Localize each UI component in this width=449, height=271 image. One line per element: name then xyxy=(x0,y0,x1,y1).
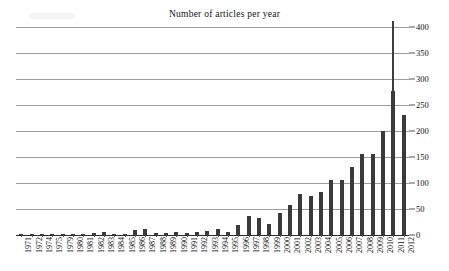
x-tick-label: 1981 xyxy=(86,237,95,253)
y-tick-mark-150 xyxy=(409,157,415,158)
x-tick-mark xyxy=(342,235,343,237)
x-tick-label: 1995 xyxy=(231,237,240,253)
x-tick-mark xyxy=(187,235,188,237)
x-axis: 1971197219741975197919801981198219831984… xyxy=(16,237,409,271)
x-tick-label: 1980 xyxy=(76,237,85,253)
bar xyxy=(371,154,375,235)
x-tick-mark xyxy=(321,235,322,237)
bar xyxy=(340,180,344,235)
y-tick-label: 200 xyxy=(416,126,429,136)
x-tick-mark xyxy=(114,235,115,237)
bar xyxy=(257,218,261,235)
bar xyxy=(236,225,240,235)
bar xyxy=(360,154,364,235)
gridline-300 xyxy=(16,79,409,80)
x-tick-mark xyxy=(156,235,157,237)
x-tick-label: 1992 xyxy=(200,237,209,253)
y-tick-label: 150 xyxy=(416,152,429,162)
x-tick-label: 2009 xyxy=(376,237,385,253)
x-tick-mark xyxy=(104,235,105,237)
x-tick-mark xyxy=(311,235,312,237)
x-tick-mark xyxy=(249,235,250,237)
x-tick-mark xyxy=(331,235,332,237)
y-tick-label: 250 xyxy=(416,100,429,110)
x-tick-label: 2007 xyxy=(355,237,364,253)
x-tick-label: 1971 xyxy=(24,237,33,253)
gridline-150 xyxy=(16,157,409,158)
x-tick-mark xyxy=(73,235,74,237)
y-tick-label: 300 xyxy=(416,74,429,84)
x-tick-label: 1987 xyxy=(148,237,157,253)
x-tick-label: 1993 xyxy=(211,237,220,253)
x-tick-mark xyxy=(269,235,270,237)
x-tick-mark xyxy=(362,235,363,237)
x-tick-mark xyxy=(228,235,229,237)
x-tick-label: 2003 xyxy=(314,237,323,253)
gridline-250 xyxy=(16,105,409,106)
gridline-200 xyxy=(16,131,409,132)
x-tick-mark xyxy=(83,235,84,237)
y-tick-label: 100 xyxy=(416,178,429,188)
x-tick-label: 2000 xyxy=(283,237,292,253)
x-tick-mark xyxy=(352,235,353,237)
x-tick-mark xyxy=(145,235,146,237)
x-tick-label: 1984 xyxy=(117,237,126,253)
x-tick-label: 1988 xyxy=(159,237,168,253)
x-tick-label: 1997 xyxy=(252,237,261,253)
y-tick-mark-300 xyxy=(409,79,415,80)
x-tick-mark xyxy=(32,235,33,237)
x-tick-label: 2012 xyxy=(407,237,416,253)
bar xyxy=(309,196,313,235)
x-tick-label: 1986 xyxy=(138,237,147,253)
x-tick-label: 1990 xyxy=(180,237,189,253)
y-tick-label: 0 xyxy=(416,230,420,240)
plot-right-border xyxy=(392,21,394,209)
y-tick-mark-350 xyxy=(409,53,415,54)
x-tick-mark xyxy=(259,235,260,237)
x-tick-label: 2010 xyxy=(386,237,395,253)
bar xyxy=(288,205,292,235)
y-tick-label: 400 xyxy=(416,22,429,32)
x-tick-label: 1974 xyxy=(45,237,54,253)
x-tick-mark xyxy=(135,235,136,237)
x-tick-mark xyxy=(207,235,208,237)
x-tick-label: 2001 xyxy=(293,237,302,253)
x-tick-label: 2008 xyxy=(366,237,375,253)
x-tick-label: 2002 xyxy=(304,237,313,253)
x-tick-label: 1994 xyxy=(221,237,230,253)
x-tick-label: 2005 xyxy=(335,237,344,253)
y-tick-mark-200 xyxy=(409,131,415,132)
x-tick-mark xyxy=(63,235,64,237)
bar xyxy=(350,167,354,235)
x-tick-label: 1998 xyxy=(262,237,271,253)
bar xyxy=(298,194,302,235)
chart-figure: Number of articles per year 050100150200… xyxy=(0,0,449,271)
x-tick-mark xyxy=(94,235,95,237)
y-tick-mark-100 xyxy=(409,183,415,184)
chart-title: Number of articles per year xyxy=(0,9,449,19)
x-tick-mark xyxy=(290,235,291,237)
x-tick-label: 1985 xyxy=(128,237,137,253)
x-tick-label: 1983 xyxy=(107,237,116,253)
bar xyxy=(267,224,271,235)
bar xyxy=(329,180,333,235)
x-tick-mark xyxy=(280,235,281,237)
y-tick-mark-400 xyxy=(409,27,415,28)
y-tick-mark-50 xyxy=(409,209,415,210)
gridline-0 xyxy=(16,235,409,236)
bar xyxy=(247,216,251,235)
x-tick-label: 2004 xyxy=(324,237,333,253)
gridline-350 xyxy=(16,53,409,54)
x-tick-label: 1996 xyxy=(242,237,251,253)
x-tick-label: 1991 xyxy=(190,237,199,253)
x-tick-mark xyxy=(300,235,301,237)
x-tick-mark xyxy=(218,235,219,237)
x-tick-mark xyxy=(52,235,53,237)
x-tick-mark xyxy=(373,235,374,237)
x-tick-mark xyxy=(166,235,167,237)
bar xyxy=(402,115,406,235)
bar xyxy=(278,213,282,235)
plot-area xyxy=(16,27,409,235)
x-tick-label: 2011 xyxy=(397,237,406,253)
x-tick-label: 1989 xyxy=(169,237,178,253)
